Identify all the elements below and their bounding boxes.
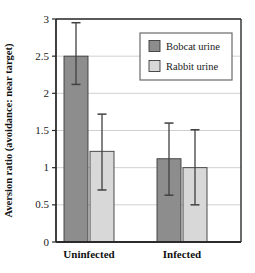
legend-label: Rabbit urine (166, 61, 219, 72)
y-tick-label: 1 (44, 161, 50, 173)
y-tick-label: 3 (44, 13, 50, 25)
x-category-label: Uninfected (63, 248, 114, 260)
legend-swatch (149, 61, 160, 72)
y-axis-title-text: Aversion ratio (avoidance: near target) (3, 43, 15, 217)
bar-chart: 00.511.522.53 UninfectedInfected Aversio… (0, 0, 255, 273)
legend-label: Bobcat urine (166, 41, 220, 52)
chart-container: 00.511.522.53 UninfectedInfected Aversio… (0, 0, 255, 273)
chart-legend: Bobcat urineRabbit urine (140, 33, 232, 80)
legend-swatch (149, 41, 160, 52)
y-tick-label: 0.5 (35, 198, 49, 210)
y-tick-label: 0 (44, 236, 50, 248)
x-category-label: Infected (163, 248, 202, 260)
y-tick-label: 2.5 (35, 50, 49, 62)
y-tick-label: 2 (44, 87, 50, 99)
y-axis-title: Aversion ratio (avoidance: near target) (3, 43, 15, 217)
y-tick-label: 1.5 (35, 124, 49, 136)
